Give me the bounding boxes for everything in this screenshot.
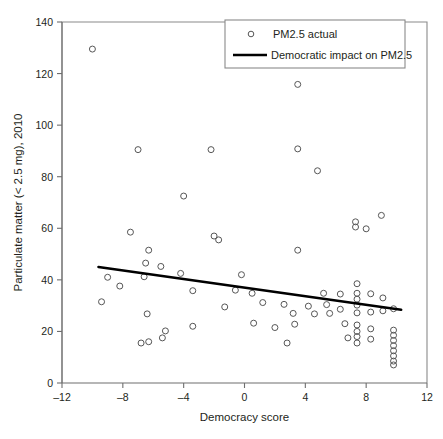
data-point [238,272,244,278]
data-point [208,147,214,153]
data-point [162,328,168,334]
data-point [321,290,327,296]
data-point [354,340,360,346]
data-point [354,281,360,287]
data-point [295,81,301,87]
y-tick-label-80: 80 [41,171,53,183]
data-point [292,321,298,327]
data-point [117,283,123,289]
data-point [342,321,348,327]
data-point [190,288,196,294]
data-point [127,229,133,235]
legend-label-line: Democratic impact on PM2.5 [271,49,412,61]
data-point [143,260,149,266]
x-tick-label-0: 0 [242,391,248,403]
data-point [324,302,330,308]
data-point [135,147,141,153]
data-point [378,212,384,218]
data-point [89,46,95,52]
data-point [251,320,257,326]
y-tick-label-120: 120 [35,68,53,80]
data-point [249,290,255,296]
scatter-plot: 020406080100120140–12–8–404812Democracy … [0,0,443,439]
data-point [354,322,360,328]
data-point [181,193,187,199]
data-point [363,226,369,232]
data-point [354,310,360,316]
data-point [337,291,343,297]
data-point [295,247,301,253]
data-point [232,287,238,293]
data-point [354,290,360,296]
data-point [295,146,301,152]
data-point [368,326,374,332]
data-point [99,299,105,305]
y-tick-label-40: 40 [41,274,53,286]
data-point [284,340,290,346]
plot-frame [62,22,427,383]
data-point [305,303,311,309]
data-point [190,323,196,329]
data-point [281,301,287,307]
data-point [368,336,374,342]
data-point [158,263,164,269]
data-point [380,295,386,301]
legend: PM2.5 actualDemocratic impact on PM2.5 [225,20,412,68]
data-point [368,309,374,315]
data-point [146,247,152,253]
x-tick-label-12: 12 [421,391,433,403]
x-tick-label-4: 4 [302,391,308,403]
data-point [144,311,150,317]
data-point [354,296,360,302]
data-point [345,335,351,341]
data-point [272,325,278,331]
y-tick-label-60: 60 [41,222,53,234]
regression-line [99,267,402,310]
data-point [315,168,321,174]
y-axis-title: Particulate matter (< 2.5 mg), 2010 [12,113,24,291]
data-point [368,291,374,297]
data-point [216,237,222,243]
y-tick-label-140: 140 [35,16,53,28]
data-point [146,339,152,345]
y-tick-label-0: 0 [47,377,53,389]
x-axis-title: Democracy score [200,411,289,423]
data-point [337,306,343,312]
data-point [311,311,317,317]
data-point [222,304,228,310]
x-tick-label-8: 8 [363,391,369,403]
data-point [159,335,165,341]
data-point [260,300,266,306]
x-tick-label--12: –12 [53,391,71,403]
data-point [105,274,111,280]
data-point [178,270,184,276]
x-tick-label--8: –8 [117,391,129,403]
data-point [391,362,397,368]
data-point [290,310,296,316]
data-point [138,340,144,346]
data-points-group [89,46,396,368]
chart-figure: 020406080100120140–12–8–404812Democracy … [0,0,443,439]
x-tick-label--4: –4 [178,391,190,403]
legend-label-scatter: PM2.5 actual [273,28,337,40]
y-tick-label-20: 20 [41,325,53,337]
data-point [327,310,333,316]
y-tick-label-100: 100 [35,119,53,131]
